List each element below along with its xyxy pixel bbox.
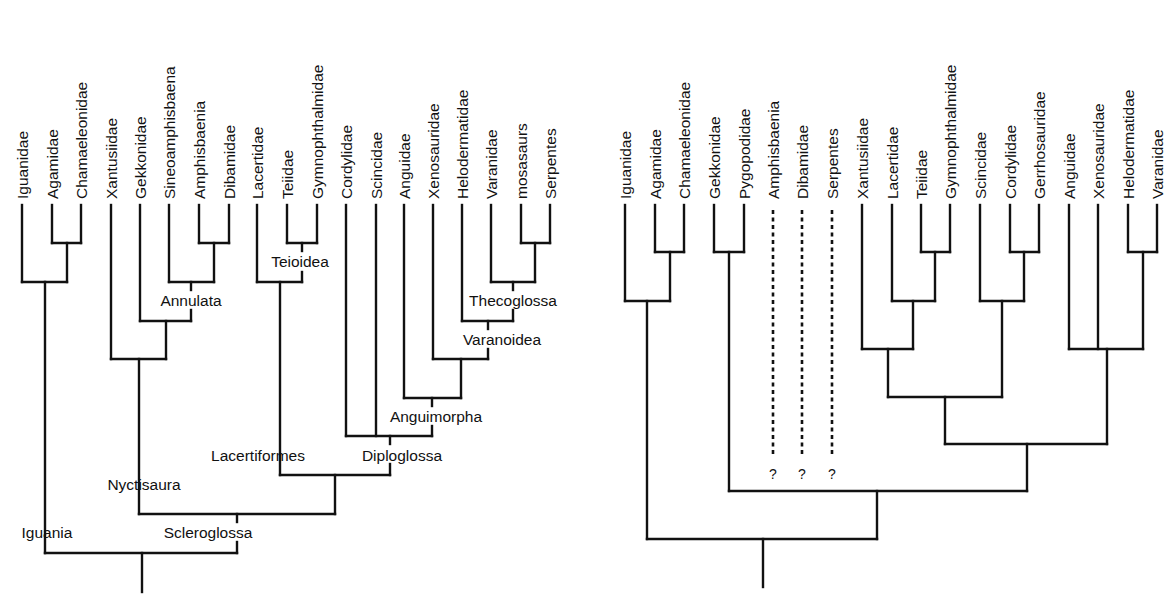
taxon-label-sineoamphisbaena: Sineoamphisbaena <box>161 66 178 199</box>
taxon-label-gymnophthalmidae: Gymnophthalmidae <box>942 65 959 199</box>
taxon-label-teiidae: Teiidae <box>913 150 930 199</box>
taxon-label-agamidae: Agamidae <box>647 129 664 199</box>
taxon-label-varanidae: Varanidae <box>1149 129 1166 199</box>
taxon-label-dibamidae: Dibamidae <box>221 125 238 199</box>
taxon-label-anguidae: Anguidae <box>396 133 413 199</box>
taxon-label-xantusiidae: Xantusiidae <box>854 118 871 199</box>
taxon-label-serpentes: Serpentes <box>824 128 841 199</box>
taxon-label-iguanidae: Iguanidae <box>14 131 31 199</box>
taxon-label-mosasaurs: mosasaurs <box>513 123 530 199</box>
taxon-label-scincidae: Scincidae <box>972 132 989 199</box>
taxon-label-pygopodidae: Pygopodidae <box>736 109 753 200</box>
taxon-label-chamaeleonidae: Chamaeleonidae <box>676 82 693 199</box>
taxon-label-amphisbaenia: Amphisbaenia <box>765 100 782 199</box>
taxon-label-teiidae: Teiidae <box>279 150 296 199</box>
clade-label-lacertiformes: Lacertiformes <box>211 447 305 464</box>
clade-label-teioidea: Teioidea <box>271 253 329 270</box>
clade-label-diploglossa: Diploglossa <box>362 447 443 464</box>
clade-label-nyctisaura: Nyctisaura <box>107 476 181 493</box>
phylogeny-figure: IguanidaeAgamidaeChamaeleonidaeXantusiid… <box>0 0 1174 607</box>
clade-label-thecoglossa: Thecoglossa <box>469 292 557 309</box>
taxon-label-amphisbaenia: Amphisbaenia <box>191 100 208 199</box>
taxon-label-cordylidae: Cordylidae <box>338 125 355 199</box>
taxon-label-serpentes: Serpentes <box>542 128 559 199</box>
uncertain-placement-mark: ? <box>828 466 836 482</box>
taxon-label-xantusiidae: Xantusiidae <box>103 118 120 199</box>
taxon-label-xenosauridae: Xenosauridae <box>1090 103 1107 199</box>
taxon-label-helodermatidae: Helodermatidae <box>454 90 471 199</box>
taxon-label-gekkonidae: Gekkonidae <box>132 116 149 199</box>
taxon-label-iguanidae: Iguanidae <box>617 131 634 199</box>
taxon-label-varanidae: Varanidae <box>483 129 500 199</box>
taxon-label-chamaeleonidae: Chamaeleonidae <box>73 82 90 199</box>
clade-label-annulata: Annulata <box>160 292 222 309</box>
taxon-label-gekkonidae: Gekkonidae <box>706 116 723 199</box>
taxon-label-scincidae: Scincidae <box>368 132 385 199</box>
clade-label-anguimorpha: Anguimorpha <box>390 408 483 425</box>
taxon-label-xenosauridae: Xenosauridae <box>425 103 442 199</box>
clade-label-scleroglossa: Scleroglossa <box>164 524 253 541</box>
taxon-label-helodermatidae: Helodermatidae <box>1120 90 1137 199</box>
taxon-label-anguidae: Anguidae <box>1061 133 1078 199</box>
taxon-label-dibamidae: Dibamidae <box>794 125 811 199</box>
taxon-label-gerrhosauridae: Gerrhosauridae <box>1031 91 1048 199</box>
taxon-label-lacertidae: Lacertidae <box>249 127 266 199</box>
clade-label-varanoidea: Varanoidea <box>463 331 542 348</box>
taxon-label-gymnophthalmidae: Gymnophthalmidae <box>309 65 326 199</box>
clade-label-iguania: Iguania <box>22 524 73 541</box>
taxon-label-lacertidae: Lacertidae <box>884 127 901 199</box>
taxon-label-cordylidae: Cordylidae <box>1002 125 1019 199</box>
taxon-label-agamidae: Agamidae <box>44 129 61 199</box>
uncertain-placement-mark: ? <box>769 466 777 482</box>
uncertain-placement-mark: ? <box>798 466 806 482</box>
